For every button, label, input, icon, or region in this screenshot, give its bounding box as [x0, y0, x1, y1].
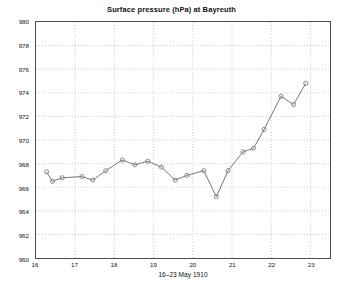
- data-series-surface-pressure: [36, 22, 330, 258]
- y-tick-label: 968: [3, 160, 29, 167]
- y-tick-label: 962: [3, 232, 29, 239]
- y-tick-label: 978: [3, 41, 29, 48]
- y-tick-label: 974: [3, 89, 29, 96]
- y-tick-label: 964: [3, 208, 29, 215]
- x-tick-label: 19: [141, 261, 165, 268]
- y-tick-label: 972: [3, 113, 29, 120]
- y-tick-label: 976: [3, 65, 29, 72]
- x-tick-label: 20: [181, 261, 205, 268]
- y-tick-label: 980: [3, 18, 29, 25]
- x-tick-label: 18: [102, 261, 126, 268]
- x-tick-label: 16: [23, 261, 47, 268]
- x-tick-label: 21: [220, 261, 244, 268]
- plot-area: [35, 21, 331, 259]
- x-tick-label: 17: [62, 261, 86, 268]
- y-tick-label: 966: [3, 184, 29, 191]
- chart-title: Surface pressure (hPa) at Bayreuth: [0, 5, 343, 14]
- figure-canvas: Surface pressure (hPa) at Bayreuth 96096…: [0, 0, 343, 288]
- y-tick-label: 970: [3, 137, 29, 144]
- x-axis-label: 16–23 May 1910: [35, 271, 331, 278]
- x-tick-label: 23: [299, 261, 323, 268]
- x-tick-label: 22: [260, 261, 284, 268]
